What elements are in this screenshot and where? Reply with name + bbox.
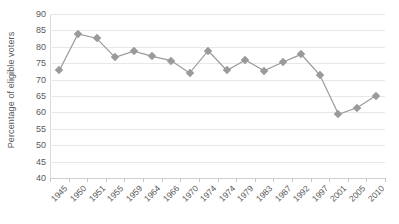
line-chart: Percentage of eligible voters 9085807570…	[0, 0, 399, 224]
x-axis-tick-label: 2005	[348, 184, 367, 203]
x-axis-tick-label: 1964	[143, 184, 162, 203]
x-axis-tick-label: 2010	[366, 184, 385, 203]
x-axis-tick-label: 1970	[180, 184, 199, 203]
x-axis-tick	[199, 178, 200, 182]
x-axis-tick	[124, 178, 125, 182]
x-axis-tick-label: 2001	[329, 184, 348, 203]
x-axis-tick	[385, 178, 386, 182]
x-axis-tick-label: 1955	[106, 184, 125, 203]
x-axis-tick-label: 1966	[162, 184, 181, 203]
x-axis-tick	[106, 178, 107, 182]
x-axis-tick	[273, 178, 274, 182]
x-axis-tick	[348, 178, 349, 182]
x-axis-tick-label: 1945	[50, 184, 69, 203]
y-axis-title-text: Percentage of eligible voters	[6, 32, 16, 148]
x-axis-tick	[366, 178, 367, 182]
y-axis-tick-label: 40	[20, 174, 46, 183]
x-axis-tick	[87, 178, 88, 182]
x-axis-tick-label: 1979	[236, 184, 255, 203]
y-axis-tick-label: 90	[20, 10, 46, 19]
y-axis-tick-label: 65	[20, 92, 46, 101]
x-axis-tick-label: 1992	[292, 184, 311, 203]
y-axis-tick-label: 70	[20, 75, 46, 84]
x-axis-tick-label: 1987	[273, 184, 292, 203]
x-axis-tick-label: 1997	[310, 184, 329, 203]
x-axis-tick	[69, 178, 70, 182]
y-axis-tick-label: 45	[20, 157, 46, 166]
x-axis-tick	[218, 178, 219, 182]
y-axis-tick-label: 55	[20, 124, 46, 133]
y-axis-tick-label: 50	[20, 141, 46, 150]
x-axis-tick	[292, 178, 293, 182]
x-axis-tick-label: 1951	[87, 184, 106, 203]
y-axis-tick-labels: 9085807570656055504540	[20, 0, 46, 224]
x-axis-tick	[329, 178, 330, 182]
plot-area	[50, 14, 385, 178]
x-axis-tick	[143, 178, 144, 182]
y-axis-tick-label: 60	[20, 108, 46, 117]
x-axis-tick-label: 1983	[255, 184, 274, 203]
x-axis-tick	[255, 178, 256, 182]
y-axis-tick-label: 75	[20, 59, 46, 68]
x-axis-tick-label: 1950	[69, 184, 88, 203]
x-axis-tick	[311, 178, 312, 182]
x-axis-tick-label: 1974	[217, 184, 236, 203]
y-axis-tick-label: 85	[20, 26, 46, 35]
x-axis-tick-label: 1959	[124, 184, 143, 203]
x-axis-tick	[162, 178, 163, 182]
x-axis-tick	[50, 178, 51, 182]
y-axis-tick-label: 80	[20, 42, 46, 51]
y-axis-title: Percentage of eligible voters	[0, 0, 22, 180]
x-axis-tick-label: 1974	[199, 184, 218, 203]
x-axis-tick	[180, 178, 181, 182]
x-axis-tick	[236, 178, 237, 182]
